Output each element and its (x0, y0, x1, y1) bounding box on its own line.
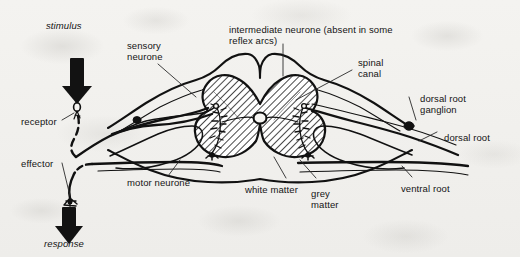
label-dorsal-root: dorsal root (444, 133, 490, 144)
label-dorsal-root-ganglion-line2: ganglion (420, 105, 457, 116)
leader-white-matter (274, 157, 286, 178)
motor-neurone-axon-dashed (74, 164, 92, 174)
left-ventral-root-second (98, 169, 220, 172)
label-ventral-root: ventral root (401, 184, 450, 195)
reflex-arc-figure: stimulus response receptor effector sens… (0, 0, 520, 257)
spinal-canal (254, 113, 267, 124)
label-intermediate-neurone-line1: intermediate neurone (absent in some (229, 25, 393, 36)
label-white-matter: white matter (245, 185, 298, 196)
label-intermediate-neurone-line2: reflex arcs) (229, 36, 277, 47)
label-sensory-neurone-line1: sensory (127, 41, 161, 52)
ventral-root-second (300, 170, 468, 175)
leader-dorsal-root-ganglion (409, 97, 416, 120)
left-root-ganglion (133, 117, 141, 124)
spinal-cord-drawing (55, 44, 468, 244)
label-receptor: receptor (21, 117, 57, 128)
label-response: response (44, 239, 84, 250)
label-sensory-neurone-line2: neurone (127, 52, 163, 63)
sensory-neurone-axon-dashed (71, 116, 79, 157)
label-stimulus: stimulus (46, 21, 82, 32)
leader-effector (62, 163, 70, 196)
stimulus-arrow-icon (62, 58, 92, 104)
leader-receptor (62, 113, 74, 120)
label-spinal-canal-line1: spinal (358, 58, 383, 69)
label-dorsal-root-ganglion-line1: dorsal root (420, 94, 466, 105)
leader-ventral-root (402, 166, 412, 177)
left-dorsal-root (112, 108, 208, 134)
label-effector: effector (21, 159, 53, 170)
label-motor-neurone: motor neurone (127, 178, 190, 189)
label-grey-matter-line1: grey (311, 189, 330, 200)
label-grey-matter-line2: matter (311, 200, 339, 211)
label-spinal-canal-line2: canal (358, 69, 381, 80)
